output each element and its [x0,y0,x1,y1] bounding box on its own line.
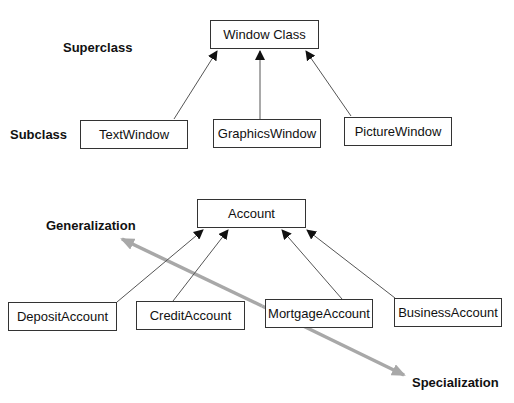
subclass-label: Subclass [10,127,67,142]
class-box-mortgageaccount: MortgageAccount [265,299,373,328]
generalization-label: Generalization [46,218,136,233]
class-box-picturewindow: PictureWindow [344,117,452,146]
superclass-label: Superclass [63,40,132,55]
class-box-depositaccount: DepositAccount [8,302,117,331]
arrow-textwindow [174,51,217,119]
class-box-graphicswindow: GraphicsWindow [213,119,321,148]
arrow-depositaccount [117,230,203,302]
class-box-account: Account [197,199,306,228]
arrow-mortgageaccount [282,230,342,299]
arrow-businessaccount [307,230,395,298]
class-box-businessaccount: BusinessAccount [394,298,502,327]
class-box-window-class: Window Class [210,20,319,49]
specialization-label: Specialization [412,375,499,390]
class-box-creditaccount: CreditAccount [136,301,245,330]
class-box-textwindow: TextWindow [80,120,188,149]
arrow-picturewindow [306,51,351,116]
